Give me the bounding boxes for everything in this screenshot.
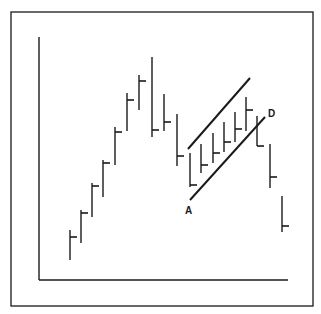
channel-trendlines [188,78,265,200]
price-bar [103,160,110,197]
price-bar [235,112,242,142]
point-labels: AD [185,108,275,216]
price-bar [282,196,289,232]
price-bar [139,75,146,110]
price-bar [201,144,208,173]
price-bar [270,144,277,188]
chart: AD [0,0,321,314]
chart-frame [11,12,313,306]
point-label-d: D [268,108,275,119]
price-bar [177,114,184,166]
axes [39,37,288,280]
price-bar [152,57,159,137]
price-bar [92,183,99,217]
price-bar [81,210,88,243]
price-bar [246,97,253,131]
price-bar [115,127,122,165]
point-label-a: A [185,205,192,216]
price-bar [190,153,197,187]
price-bar [164,94,171,131]
price-bar [70,230,77,260]
price-bar [213,133,220,163]
price-bars [70,57,289,260]
price-bar [127,93,134,131]
price-bar [224,122,231,152]
upper-channel-line [188,78,250,149]
